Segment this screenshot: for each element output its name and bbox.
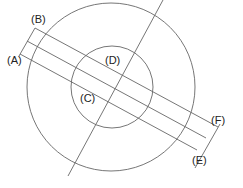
label-b: (B) (31, 14, 46, 25)
band-line-bottom (20, 54, 197, 150)
label-d: (D) (105, 55, 120, 66)
label-e: (E) (192, 155, 207, 166)
label-c: (C) (80, 93, 95, 104)
label-f: (F) (211, 115, 225, 126)
band-end-left (19, 28, 35, 56)
label-a: (A) (7, 55, 22, 66)
